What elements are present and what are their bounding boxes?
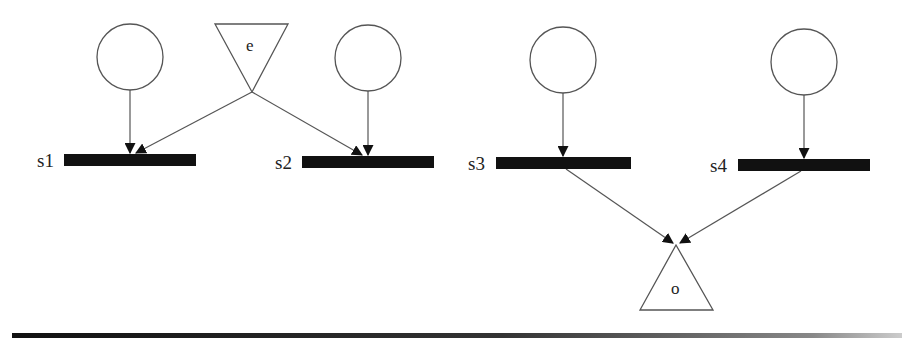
input-port-e	[215, 24, 288, 92]
transition-s2	[302, 156, 434, 168]
bottom-rule-divider	[12, 333, 902, 338]
arc-e-s2	[252, 92, 362, 155]
place-p4	[771, 29, 837, 95]
transition-s3	[496, 157, 631, 169]
transition-label-s4: s4	[710, 155, 727, 176]
transition-s4	[738, 159, 870, 171]
transition-label-s3: s3	[468, 153, 485, 174]
input-port-label: e	[246, 36, 254, 55]
transition-label-s2: s2	[275, 152, 292, 173]
arc-s3-o	[566, 169, 673, 243]
petri-net-diagram: e o s1 s2 s3 s4	[0, 0, 917, 338]
place-p3	[530, 27, 596, 93]
output-port-o	[640, 245, 713, 310]
transition-s1	[64, 154, 196, 166]
place-p2	[335, 25, 401, 91]
place-p1	[97, 24, 163, 90]
output-port-label: o	[671, 279, 680, 298]
transition-label-s1: s1	[37, 150, 54, 171]
arc-s4-o	[680, 171, 801, 243]
arc-e-s1	[136, 92, 252, 153]
